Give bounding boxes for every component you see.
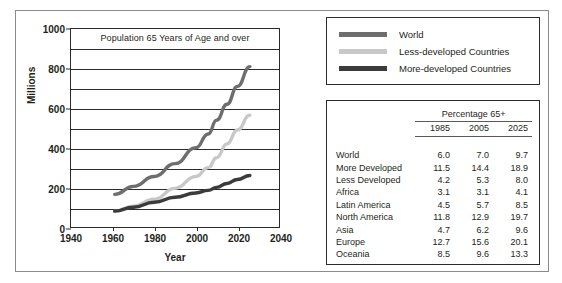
table-cell-value: 4.2 [415, 174, 454, 186]
series-line [115, 176, 250, 212]
legend-item: More-developed Countries [339, 60, 531, 77]
table-cell-value: 4.7 [415, 224, 454, 236]
table-row: Less Developed4.25.38.0 [336, 174, 532, 186]
legend-label: Less-developed Countries [399, 46, 509, 57]
table-cell-value: 13.3 [493, 248, 532, 260]
table-cell-value: 12.7 [415, 236, 454, 248]
table-cell-value: 18.9 [493, 162, 532, 174]
figure-root: Millions Year Population 65 Years of Age… [0, 0, 562, 283]
table-row-label: Africa [336, 186, 415, 198]
x-tick-label: 1940 [60, 233, 82, 244]
table-row-label: Oceania [336, 248, 415, 260]
table-span-header: Percentage 65+ [415, 108, 532, 122]
table-spacer-row [336, 136, 532, 149]
series-lines-group [71, 29, 279, 227]
x-tick-label: 2000 [186, 233, 208, 244]
table-cell-value: 5.3 [454, 174, 493, 186]
x-tick-label: 1960 [102, 233, 124, 244]
table-row-label: Less Developed [336, 174, 415, 186]
legend-swatch [339, 49, 387, 54]
table-cell-value: 20.1 [493, 236, 532, 248]
table-cell-value: 19.7 [493, 211, 532, 223]
y-axis-title: Millions [26, 67, 37, 104]
legend-box: WorldLess-developed CountriesMore-develo… [326, 17, 540, 85]
table-cell-value: 9.6 [454, 248, 493, 260]
table-cell-value: 14.4 [454, 162, 493, 174]
table-row: Oceania8.59.613.3 [336, 248, 532, 260]
x-axis-title: Year [70, 252, 280, 263]
table-cell-value: 6.0 [415, 149, 454, 161]
table-year-header-row: 198520052025 [336, 122, 532, 136]
table-cell-value: 15.6 [454, 236, 493, 248]
table-cell-value: 11.5 [415, 162, 454, 174]
table-corner-cell [336, 108, 415, 122]
table-span-header-row: Percentage 65+ [336, 108, 532, 122]
table-row: Latin America4.55.78.5 [336, 199, 532, 211]
y-tick-label: 800 [48, 64, 65, 75]
y-tick-label: 200 [48, 184, 65, 195]
legend-list: WorldLess-developed CountriesMore-develo… [339, 26, 531, 77]
plot-area: Population 65 Years of Age and over 0200… [70, 28, 280, 228]
x-tick-mark [197, 227, 198, 231]
y-tick-mark [66, 229, 71, 230]
table-cell-value: 4.1 [493, 186, 532, 198]
x-tick-mark [155, 227, 156, 231]
table-cell-value: 8.0 [493, 174, 532, 186]
table-blank-cell [336, 122, 415, 136]
table-row-label: More Developed [336, 162, 415, 174]
table-row-label: World [336, 149, 415, 161]
table-row-label: Asia [336, 224, 415, 236]
series-line [115, 67, 250, 195]
x-tick-label: 2040 [270, 233, 292, 244]
legend-label: World [399, 29, 424, 40]
legend-label: More-developed Countries [399, 63, 511, 74]
x-tick-mark [113, 227, 114, 231]
table-cell-value: 9.6 [493, 224, 532, 236]
table-row: Asia4.76.29.6 [336, 224, 532, 236]
x-tick-label: 2020 [228, 233, 250, 244]
table-cell-value: 7.0 [454, 149, 493, 161]
percentage-table: Percentage 65+198520052025World6.07.09.7… [336, 108, 532, 261]
percentage-table-box: Percentage 65+198520052025World6.07.09.7… [326, 100, 540, 265]
table-cell-value: 11.8 [415, 211, 454, 223]
table-cell-value: 3.1 [415, 186, 454, 198]
table-year-header: 2005 [454, 122, 493, 136]
table-year-header: 2025 [493, 122, 532, 136]
x-tick-label: 1980 [144, 233, 166, 244]
table-cell-value: 12.9 [454, 211, 493, 223]
table-cell-value: 5.7 [454, 199, 493, 211]
y-tick-label: 400 [48, 144, 65, 155]
table-cell-value: 4.5 [415, 199, 454, 211]
table-row: Africa3.13.14.1 [336, 186, 532, 198]
table-row: More Developed11.514.418.9 [336, 162, 532, 174]
legend-item: World [339, 26, 531, 43]
table-cell-value: 8.5 [493, 199, 532, 211]
table-row-label: Europe [336, 236, 415, 248]
table-row-label: Latin America [336, 199, 415, 211]
table-cell-value: 9.7 [493, 149, 532, 161]
line-chart-panel: Millions Year Population 65 Years of Age… [20, 14, 312, 269]
table-cell-value: 3.1 [454, 186, 493, 198]
legend-swatch [339, 32, 387, 37]
y-tick-label: 600 [48, 104, 65, 115]
legend-swatch [339, 66, 387, 71]
y-tick-label: 1000 [43, 24, 65, 35]
table-row-label: North America [336, 211, 415, 223]
table-year-header: 1985 [415, 122, 454, 136]
table-cell-value: 8.5 [415, 248, 454, 260]
table-row: Europe12.715.620.1 [336, 236, 532, 248]
table-cell-value: 6.2 [454, 224, 493, 236]
table-row: North America11.812.919.7 [336, 211, 532, 223]
x-tick-mark [239, 227, 240, 231]
table-row: World6.07.09.7 [336, 149, 532, 161]
legend-item: Less-developed Countries [339, 43, 531, 60]
